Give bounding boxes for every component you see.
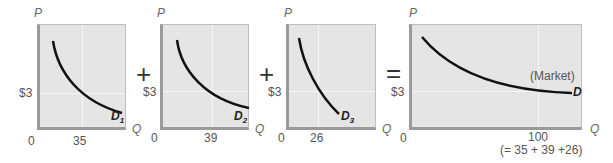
- q-axis-label: Q: [382, 122, 391, 136]
- quantity-tick: 26: [310, 131, 323, 145]
- origin-label: 0: [151, 131, 158, 145]
- quantity-tick: 35: [73, 134, 86, 148]
- origin-label: 0: [400, 131, 407, 145]
- price-tick-3: $3: [19, 86, 32, 100]
- chart-panel-market: (Market) D: [409, 24, 582, 130]
- curve-label-d2: D2: [234, 109, 247, 125]
- curve-label-d1: D1: [111, 109, 124, 125]
- market-annotation: (Market): [530, 69, 575, 83]
- price-tick-3: $3: [143, 85, 156, 99]
- p-axis-label: P: [409, 6, 417, 20]
- origin-label: 0: [278, 131, 285, 145]
- chart-panel-d1: D1: [37, 24, 126, 130]
- origin-label: 0: [28, 134, 35, 148]
- chart-panel-d2: D2: [160, 24, 249, 130]
- p-axis-label: P: [157, 6, 165, 20]
- plus-operator: +: [259, 61, 274, 87]
- p-axis-label: P: [34, 6, 42, 20]
- price-tick-3: $3: [391, 85, 404, 99]
- plus-operator: +: [136, 61, 151, 87]
- curve-label-market: D: [573, 85, 582, 99]
- chart-panel-d3: D3: [286, 24, 376, 130]
- price-tick-3: $3: [268, 85, 281, 99]
- demand-curve-d3: [289, 25, 379, 131]
- quantity-sum-note: (= 35 + 39 +26): [500, 143, 582, 157]
- p-axis-label: P: [284, 6, 292, 20]
- q-axis-label: Q: [132, 122, 141, 136]
- q-axis-label: Q: [255, 122, 264, 136]
- quantity-tick: 39: [204, 131, 217, 145]
- q-axis-label: Q: [590, 122, 599, 136]
- quantity-tick: 100: [528, 130, 548, 144]
- equals-operator: =: [386, 60, 401, 86]
- curve-label-d3: D3: [341, 109, 354, 125]
